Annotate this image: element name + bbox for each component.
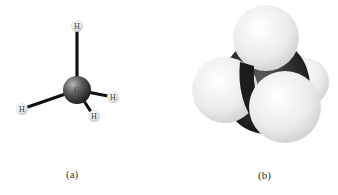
carbon-label: C [74,86,79,95]
caption-b: (b) [258,169,271,181]
space-filling-panel: (b) [170,0,338,195]
hydrogen-sphere-top [233,5,299,71]
hydrogen-label-right: H [110,93,116,102]
hydrogen-label-left: H [19,105,25,114]
hydrogen-atom-top: H [71,20,83,32]
caption-a: (a) [66,168,78,180]
hydrogen-atom-front: H [88,110,100,122]
hydrogen-label-front: H [91,112,97,121]
hydrogen-atom-left: H [16,103,28,115]
ball-and-stick-model: C H H H H [0,0,170,195]
hydrogen-label-top: H [74,22,80,31]
hydrogen-atom-right: H [107,91,119,103]
bonds [22,27,113,115]
space-filling-model [170,0,338,195]
ball-and-stick-panel: C H H H H (a) [0,0,170,195]
hydrogen-sphere-front [249,71,321,143]
carbon-atom: C [63,76,91,104]
